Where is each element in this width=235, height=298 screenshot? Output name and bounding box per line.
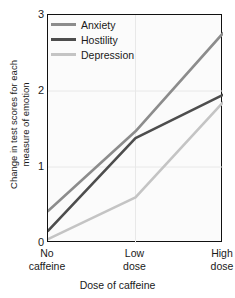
legend-label: Depression (81, 49, 134, 61)
legend-label: Hostility (81, 34, 118, 46)
legend-item-hostility[interactable]: Hostility (51, 32, 147, 47)
legend-item-anxiety[interactable]: Anxiety (51, 17, 147, 32)
x-axis-title: Dose of caffeine (0, 279, 235, 291)
legend-swatch-depression (51, 53, 76, 56)
y-axis-title-line-1: Change in test scores for each (8, 60, 20, 189)
legend-label: Anxiety (81, 19, 115, 31)
y-axis-tick-label: 2 (26, 84, 44, 96)
line-chart: Change in test scores for each measure o… (0, 0, 235, 298)
x-axis-tick-label: Highdose (211, 247, 234, 272)
y-axis-tick-label: 1 (26, 160, 44, 172)
legend-swatch-anxiety (51, 23, 76, 26)
chart-legend: AnxietyHostilityDepression (51, 17, 147, 62)
legend-item-depression[interactable]: Depression (51, 47, 147, 62)
legend-swatch-hostility (51, 38, 76, 41)
x-axis-tick-label: Nocaffeine (29, 247, 66, 272)
y-axis-tick-label: 3 (26, 8, 44, 20)
x-axis-tick-label: Lowdose (123, 247, 146, 272)
